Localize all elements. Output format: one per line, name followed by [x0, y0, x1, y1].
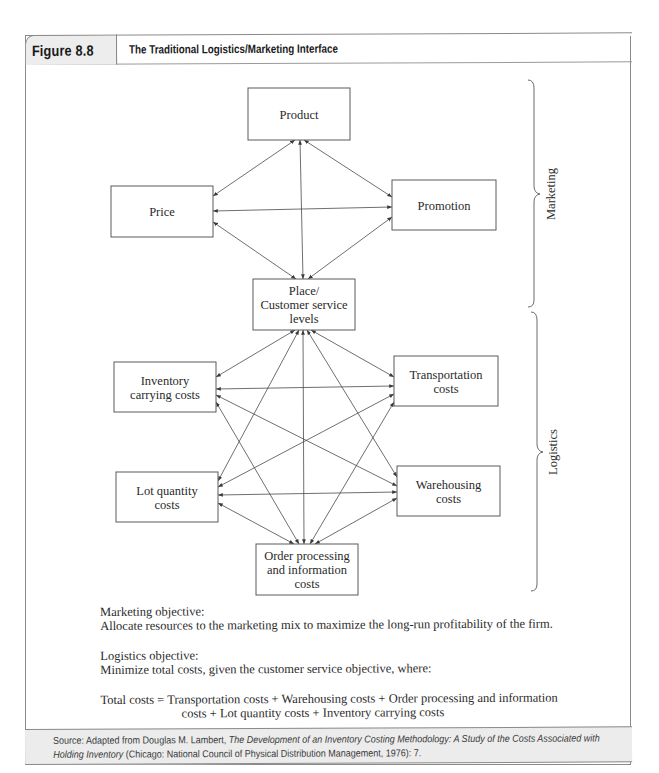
node-label: Promotion	[418, 199, 472, 213]
arrow-price-promotion	[213, 207, 392, 211]
node-product: Product	[248, 88, 350, 140]
node-inventory: Inventorycarrying costs	[114, 362, 216, 412]
arrow-warehousing-order	[315, 498, 397, 544]
arrow-transportation-order	[310, 402, 394, 544]
node-label: costs	[295, 577, 320, 591]
total-costs-equation: Total costs = Transportation costs + War…	[100, 691, 557, 721]
arrow-lot-order	[218, 503, 294, 544]
node-label: and information	[267, 563, 348, 577]
node-promotion: Promotion	[392, 180, 496, 230]
marketing-label: Marketing	[544, 167, 558, 220]
source-footer: Source: Adapted from Douglas M. Lambert,…	[25, 726, 632, 765]
node-transportation: Transportationcosts	[394, 356, 498, 406]
logistics-objective-heading: Logistics objective:	[100, 648, 198, 663]
node-label: Inventory	[141, 374, 190, 388]
node-label: carrying costs	[130, 388, 200, 402]
objectives-notes: Marketing objective: Allocate resources …	[100, 603, 558, 737]
arrow-place-warehousing	[307, 330, 397, 477]
marketing-brace: Marketing	[528, 80, 558, 307]
arrow-place-lot	[218, 330, 299, 481]
arrow-promotion-place	[308, 217, 392, 279]
arrow-product-price	[213, 140, 295, 196]
node-label: Order processing	[264, 549, 350, 563]
arrow-place-order	[303, 330, 304, 544]
connections	[213, 140, 397, 544]
arrow-product-promotion	[304, 140, 392, 197]
node-label: Lot quantity	[136, 484, 198, 498]
node-label: costs	[155, 498, 180, 512]
marketing-objective: Marketing objective: Allocate resources …	[100, 603, 557, 633]
logistics-label: Logistics	[546, 429, 560, 475]
arrow-inventory-order	[216, 402, 299, 544]
marketing-objective-heading: Marketing objective:	[100, 604, 205, 619]
node-label: costs	[436, 492, 461, 506]
node-label: Warehousing	[416, 478, 482, 492]
source-prefix: Source: Adapted from Douglas M. Lambert,	[53, 734, 229, 746]
logistics-brace: Logistics	[531, 312, 560, 591]
nodes: ProductPricePromotionPlace/Customer serv…	[111, 88, 500, 595]
node-label: Transportation	[409, 368, 483, 382]
arrow-place-transportation	[311, 330, 394, 377]
arrow-product-place	[300, 140, 303, 279]
node-label: Customer service	[260, 298, 348, 312]
marketing-objective-text: Allocate resources to the marketing mix …	[100, 617, 553, 633]
arrow-place-inventory	[216, 330, 295, 377]
source-citation: Source: Adapted from Douglas M. Lambert,…	[53, 731, 629, 762]
node-place: Place/Customer servicelevels	[253, 279, 355, 330]
node-label: Place/	[289, 284, 320, 298]
node-label: levels	[289, 312, 318, 326]
node-order: Order processingand informationcosts	[256, 544, 358, 595]
node-label: Product	[280, 108, 319, 122]
arrow-price-place	[213, 222, 296, 279]
node-label: costs	[434, 382, 459, 396]
node-label: Price	[149, 205, 175, 219]
logistics-objective-text: Minimize total costs, given the customer…	[100, 661, 431, 677]
total-costs-line-1: Total costs = Transportation costs + War…	[100, 691, 557, 707]
arrow-transportation-lot	[218, 394, 394, 487]
logistics-objective: Logistics objective: Minimize total cost…	[100, 647, 557, 677]
arrow-lot-warehousing	[218, 492, 397, 495]
source-suffix: (Chicago: National Council of Physical D…	[123, 747, 421, 759]
node-warehousing: Warehousingcosts	[397, 466, 500, 516]
total-costs-line-2: costs + Lot quantity costs + Inventory c…	[101, 705, 558, 721]
node-lot: Lot quantitycosts	[116, 472, 218, 522]
arrow-inventory-transportation	[216, 386, 394, 389]
node-price: Price	[111, 186, 213, 237]
